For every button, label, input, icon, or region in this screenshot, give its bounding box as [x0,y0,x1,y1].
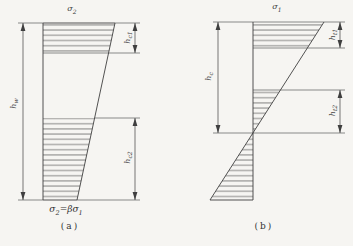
caption-formula-a: σ2=βσ1 [38,204,94,217]
dim-label-ht2: ht2 [326,89,339,133]
hatched-zone-a-top [43,23,115,53]
sigma1-sub: 1 [278,6,282,13]
sigma2-sub: 2 [73,8,77,15]
dim-label-hc: hc [202,55,215,99]
hc-base: h [204,76,213,81]
hc1-sub: c1 [126,31,133,38]
hatched-zone-a-bottom [43,118,95,200]
hatched-zone-b-top [253,22,324,48]
dim-label-hc1: hc1 [121,16,134,60]
hw-sub: w [12,98,19,103]
hc2-sub: c2 [126,151,133,158]
hc-sub: c [207,72,214,75]
ht1-base: h [328,35,337,40]
dim-label-hc2: hc2 [121,136,134,180]
dim-label-hw: hw [7,82,20,126]
diagonal-b [210,22,324,200]
hw-base: h [9,104,18,109]
stress-label-sigma1: σ1 [263,0,291,16]
caption-b: (b) [244,221,284,231]
hc2-base: h [123,159,132,164]
ht2-base: h [328,111,337,116]
stress-label-sigma2: σ2 [58,2,86,18]
caption-a: (a) [50,221,90,231]
formula-equals-beta: =β [60,204,73,214]
hc1-base: h [123,39,132,44]
formula-sub1: 1 [79,209,83,217]
ht2-sub: t2 [331,105,338,111]
ht1-sub: t1 [331,29,338,35]
stress-distribution-figure: σ2 hw hc1 hc2 σ2=βσ1 (a) σ1 hc ht1 ht2 (… [0,0,353,246]
dim-label-ht1: ht1 [326,13,339,57]
